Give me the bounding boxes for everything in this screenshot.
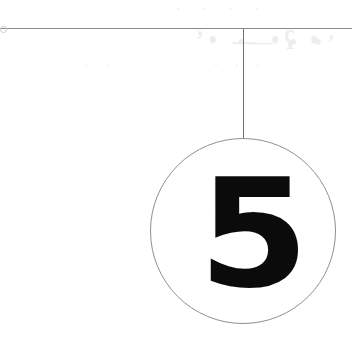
scan-edge-artifact bbox=[0, 26, 7, 33]
marker-number: 5 bbox=[150, 138, 336, 324]
ghost-mark: •— • •’ bbox=[238, 30, 341, 55]
ghost-mark: ’• — •ʕ • bbox=[196, 26, 323, 56]
vertical-leader-line bbox=[243, 29, 244, 138]
horizontal-rule bbox=[0, 28, 352, 29]
marker-number-text: 5 bbox=[199, 147, 310, 321]
ghost-mark: · · · bbox=[214, 58, 267, 73]
marker-number-svg: 5 bbox=[150, 138, 336, 324]
ghost-mark: · · · · bbox=[176, 2, 268, 18]
scanned-page: · · · · ’• — •ʕ • •— • •’ · · · · · 5 bbox=[0, 0, 352, 345]
ghost-mark: · · bbox=[84, 58, 119, 73]
